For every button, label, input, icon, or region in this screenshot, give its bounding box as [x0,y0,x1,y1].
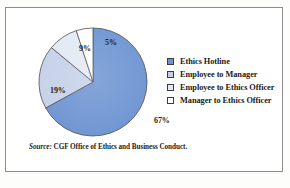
legend-item-label: Employee to Manager [180,70,257,79]
chart-legend: Ethics Hotline Employee to Manager Emplo… [167,55,274,107]
legend-swatch-icon [167,71,174,78]
source-note-prefix: Source: [29,143,52,151]
legend-item-employee-to-manager[interactable]: Employee to Manager [167,68,274,81]
legend-item-employee-to-ethics-officer[interactable]: Employee to Ethics Officer [167,81,274,94]
legend-item-manager-to-ethics-officer[interactable]: Manager to Ethics Officer [167,94,274,107]
legend-swatch-icon [167,97,174,104]
pie-chart-svg [31,20,155,142]
pie-slice-value-employee-to-manager: 19% [50,86,66,95]
legend-swatch-icon [167,58,174,65]
figure-root: 67% 19% 9% 5% Ethics Hotline Employee to… [0,0,290,188]
legend-item-ethics-hotline[interactable]: Ethics Hotline [167,55,274,68]
legend-item-label: Manager to Ethics Officer [180,96,271,105]
pie-slice-value-manager-to-ethics-officer: 5% [105,38,117,47]
pie-slice-value-employee-to-ethics-officer: 9% [79,44,91,53]
pie-sheen-overlay [39,28,147,136]
source-note-text: CGF Office of Ethics and Business Conduc… [52,143,187,151]
pie-chart: 67% 19% 9% 5% [31,20,155,142]
pie-slice-value-ethics-hotline: 67% [154,116,170,125]
legend-swatch-icon [167,84,174,91]
legend-item-label: Ethics Hotline [180,57,230,66]
legend-item-label: Employee to Ethics Officer [180,83,274,92]
source-note: Source: CGF Office of Ethics and Busines… [29,143,187,151]
